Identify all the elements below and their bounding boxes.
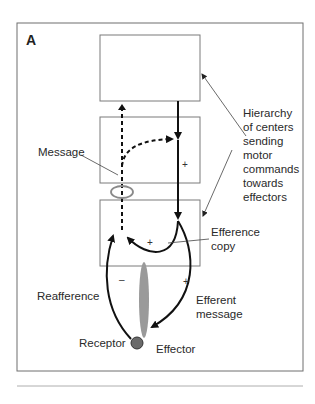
svg-text:message: message (196, 308, 243, 320)
efferent-sign: + (183, 276, 189, 287)
efference-copy-label: Efference copy (211, 226, 260, 252)
reafference-label: Reafference (37, 290, 99, 302)
svg-text:sending: sending (243, 135, 283, 147)
efferent-message-label: Efferent message (196, 294, 243, 320)
middle-box-sign: + (182, 159, 188, 170)
center-box-top (100, 35, 200, 101)
svg-text:Hierarchy: Hierarchy (243, 107, 292, 119)
efference-copy-sign: + (147, 237, 153, 248)
svg-text:Efferent: Efferent (196, 294, 237, 306)
diagram-canvas: A + + – + Message Hierarchy of centers s… (0, 0, 315, 404)
hierarchy-pointer-top (202, 74, 246, 136)
receptor-label: Receptor (79, 337, 126, 349)
receptor-shape (131, 337, 143, 349)
effector-shape (139, 262, 149, 338)
svg-text:towards: towards (243, 177, 284, 189)
hierarchy-label: Hierarchy of centers sending motor comma… (243, 107, 299, 203)
svg-text:of centers: of centers (243, 121, 294, 133)
panel-label: A (26, 32, 36, 48)
svg-text:effectors: effectors (243, 191, 287, 203)
hierarchy-pointer-bottom (203, 150, 232, 216)
svg-text:copy: copy (211, 240, 236, 252)
svg-text:motor: motor (243, 149, 273, 161)
message-arrowhead-up (118, 104, 126, 110)
effector-label: Effector (156, 343, 196, 355)
reafference-sign: – (119, 274, 125, 285)
svg-text:Efference: Efference (211, 226, 260, 238)
message-label: Message (38, 146, 85, 158)
svg-text:commands: commands (243, 163, 299, 175)
